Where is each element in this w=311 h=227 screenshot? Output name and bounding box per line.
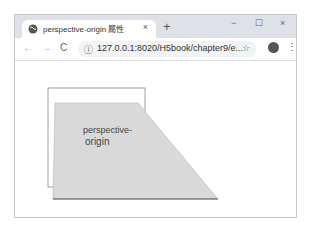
minimize-button[interactable]: − xyxy=(231,18,236,28)
box-label-line1: perspective- xyxy=(83,125,132,135)
forward-button[interactable]: → xyxy=(41,42,51,53)
tab-title: perspective-origin 屬性 xyxy=(43,23,124,34)
perspective-demo: perspective- origin xyxy=(15,61,298,218)
info-icon[interactable]: ⓘ xyxy=(84,43,93,56)
menu-kebab-icon[interactable]: ⋮ xyxy=(287,41,297,52)
url-text[interactable]: 127.0.0.1:8020/H5book/chapter9/e... xyxy=(97,43,243,53)
maximize-button[interactable]: ☐ xyxy=(255,18,263,28)
close-window-button[interactable]: × xyxy=(280,18,285,28)
box-label-line2: origin xyxy=(85,136,109,147)
globe-icon xyxy=(28,24,38,34)
reload-button[interactable]: C xyxy=(60,42,67,53)
address-bar[interactable]: ⓘ 127.0.0.1:8020/H5book/chapter9/e... ☆ xyxy=(78,41,256,57)
title-bar: perspective-origin 屬性 × + − ☐ × xyxy=(15,15,296,38)
tab-active[interactable]: perspective-origin 屬性 × xyxy=(22,20,156,38)
transformed-box xyxy=(53,103,218,199)
new-tab-button[interactable]: + xyxy=(163,20,171,33)
page-content: perspective- origin xyxy=(15,61,296,218)
bookmark-star-icon[interactable]: ☆ xyxy=(242,43,250,53)
tab-close-icon[interactable]: × xyxy=(143,22,148,32)
browser-window: perspective-origin 屬性 × + − ☐ × ← → C ⓘ … xyxy=(14,14,297,218)
profile-avatar-icon[interactable] xyxy=(268,42,279,53)
back-button[interactable]: ← xyxy=(23,42,33,53)
toolbar: ← → C ⓘ 127.0.0.1:8020/H5book/chapter9/e… xyxy=(15,38,296,61)
